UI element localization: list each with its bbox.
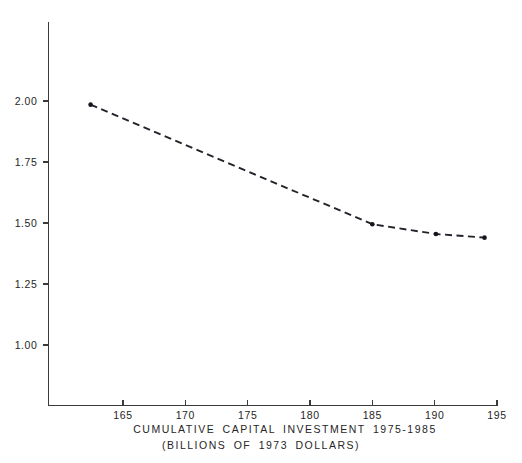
data-point-marker xyxy=(370,222,375,227)
y-tick-label: 1.50 xyxy=(15,217,38,229)
x-tick-label: 185 xyxy=(363,409,382,421)
y-tick-label: 1.25 xyxy=(15,278,38,290)
x-axis-title-line2: (BILLIONS OF 1973 DOLLARS) xyxy=(162,439,360,451)
series-line-cost xyxy=(91,105,485,238)
x-tick-label: 195 xyxy=(487,409,506,421)
y-tick-label: 2.00 xyxy=(15,95,38,107)
x-axis-ticks: 165170175180185190195 xyxy=(113,400,506,421)
axis-spine xyxy=(49,22,498,406)
y-tick-label: 1.75 xyxy=(15,156,38,168)
y-axis-ticks: 1.001.251.501.752.00 xyxy=(15,95,49,351)
x-tick-label: 190 xyxy=(425,409,444,421)
data-point-marker xyxy=(88,102,93,107)
data-point-marker xyxy=(434,232,439,237)
axis-title: CUMULATIVE CAPITAL INVESTMENT 1975-1985 … xyxy=(133,423,436,451)
y-tick-label: 1.00 xyxy=(15,339,38,351)
data-point-marker xyxy=(482,235,487,240)
x-tick-label: 165 xyxy=(113,409,132,421)
line-chart: 1.001.251.501.752.00 1651701751801851901… xyxy=(0,0,522,463)
data-series xyxy=(88,102,487,240)
x-axis-title-line1: CUMULATIVE CAPITAL INVESTMENT 1975-1985 xyxy=(133,423,436,435)
x-tick-label: 175 xyxy=(238,409,257,421)
chart-container: 1.001.251.501.752.00 1651701751801851901… xyxy=(0,0,522,463)
x-tick-label: 180 xyxy=(300,409,319,421)
axes xyxy=(49,22,498,406)
x-tick-label: 170 xyxy=(176,409,195,421)
